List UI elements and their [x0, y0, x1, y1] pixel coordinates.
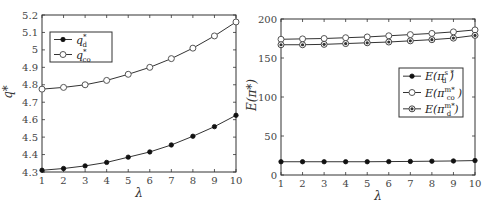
legend-entry-label: E(πs *d) [424, 69, 454, 85]
marker-center-dot [301, 43, 304, 46]
x-tick-label: 2 [60, 175, 66, 186]
x-tick-label: 3 [82, 175, 88, 186]
y-axis-label: q* [1, 85, 15, 99]
filled-circle-marker-icon [104, 160, 108, 164]
x-tick-label: 10 [230, 175, 243, 186]
filled-circle-marker-icon [279, 160, 283, 164]
x-tick-label: 6 [386, 178, 392, 189]
x-tick-label: 1 [278, 178, 284, 189]
x-axis-label: λ [134, 186, 143, 200]
open-circle-marker-icon [429, 30, 435, 36]
x-tick-label: 9 [211, 175, 217, 186]
open-circle-marker-icon [343, 35, 349, 41]
y-tick-label: 4.6 [22, 114, 38, 125]
filled-circle-marker-icon [430, 159, 434, 163]
open-circle-marker-icon [61, 84, 67, 90]
filled-circle-marker-icon [387, 159, 391, 163]
marker-center-dot [344, 42, 347, 45]
y-tick-label: 4.5 [22, 132, 38, 143]
x-tick-label: 5 [364, 178, 370, 189]
open-circle-marker-icon [321, 36, 327, 42]
y-tick-label: 5.2 [22, 10, 38, 21]
marker-center-dot [387, 40, 390, 43]
y-tick-label: 4.4 [22, 149, 38, 160]
filled-circle-marker-icon [40, 168, 44, 172]
y-tick-label: 100 [258, 92, 277, 103]
series-line [281, 30, 475, 39]
open-circle-marker-icon [386, 33, 392, 39]
x-tick-label: 7 [407, 178, 413, 189]
x-tick-label: 4 [342, 178, 348, 189]
right-chart: 12345678910050100150200λE(π*)E(πs *d)E(π… [245, 14, 481, 204]
open-circle-marker-icon [190, 45, 196, 51]
figure: 123456789104.34.44.54.64.74.84.955.15.2λ… [0, 0, 490, 214]
x-axis-label: λ [373, 189, 382, 203]
marker-center-dot [366, 41, 369, 44]
open-circle-marker-icon [233, 19, 239, 25]
marker-center-dot [279, 43, 282, 46]
y-tick-label: 4.3 [22, 167, 38, 178]
x-tick-label: 5 [125, 175, 131, 186]
legend-entry-label: E(πm*d) [424, 102, 458, 118]
legend-entry-label: q*d [76, 33, 88, 49]
open-circle-marker-icon [82, 82, 88, 88]
filled-circle-marker-icon [473, 158, 477, 162]
filled-circle-marker-icon [61, 166, 65, 170]
open-circle-marker-icon [168, 56, 174, 62]
open-circle-marker-icon [409, 90, 415, 96]
x-tick-label: 3 [321, 178, 327, 189]
filled-circle-marker-icon [148, 150, 152, 154]
filled-circle-marker-icon [234, 113, 238, 117]
filled-circle-marker-icon [191, 134, 195, 138]
marker-center-dot [409, 39, 412, 42]
filled-circle-marker-icon [408, 159, 412, 163]
filled-circle-marker-icon [451, 159, 455, 163]
series-q_d* [40, 113, 238, 172]
filled-circle-marker-icon [410, 74, 414, 78]
series-E(π_d^m*) [278, 32, 478, 47]
y-tick-label: 50 [264, 131, 277, 142]
filled-circle-marker-icon [212, 124, 216, 128]
filled-circle-marker-icon [83, 164, 87, 168]
filled-circle-marker-icon [343, 160, 347, 164]
filled-circle-marker-icon [322, 160, 326, 164]
x-tick-label: 9 [450, 178, 456, 189]
open-circle-marker-icon [450, 29, 456, 35]
x-tick-label: 1 [39, 175, 45, 186]
y-tick-label: 200 [258, 14, 277, 25]
marker-center-dot [473, 34, 476, 37]
series-line [281, 161, 475, 162]
open-circle-marker-icon [104, 77, 110, 83]
y-axis-label: E(π*) [245, 79, 259, 112]
left-chart: 123456789104.34.44.54.64.74.84.955.15.2λ… [1, 10, 242, 201]
x-tick-label: 2 [299, 178, 305, 189]
open-circle-marker-icon [147, 64, 153, 70]
x-tick-label: 8 [190, 175, 196, 186]
open-circle-marker-icon [60, 52, 66, 58]
open-circle-marker-icon [39, 86, 45, 92]
y-tick-label: 4.8 [22, 79, 38, 90]
y-tick-label: 5.1 [22, 27, 38, 38]
filled-circle-marker-icon [169, 143, 173, 147]
filled-circle-marker-icon [126, 155, 130, 159]
y-tick-label: 4.7 [22, 97, 38, 108]
x-tick-label: 6 [147, 175, 153, 186]
marker-center-dot [430, 38, 433, 41]
legend: q*dq*co [50, 32, 112, 64]
series-line [42, 115, 236, 170]
filled-circle-marker-icon [365, 160, 369, 164]
y-tick-label: 0 [271, 170, 277, 181]
marker-center-dot [452, 37, 455, 40]
x-tick-label: 8 [429, 178, 435, 189]
x-tick-label: 7 [168, 175, 174, 186]
series-E(π_co^m*) [278, 27, 478, 42]
y-tick-label: 5 [32, 44, 38, 55]
open-circle-marker-icon [125, 71, 131, 77]
filled-circle-marker-icon [61, 37, 65, 41]
open-circle-marker-icon [407, 32, 413, 38]
legend: E(πs *d)E(πm*co)E(πm*d) [399, 68, 463, 118]
marker-center-dot [323, 43, 326, 46]
y-tick-label: 4.9 [22, 62, 38, 73]
open-circle-marker-icon [364, 34, 370, 40]
open-circle-marker-icon [300, 36, 306, 42]
